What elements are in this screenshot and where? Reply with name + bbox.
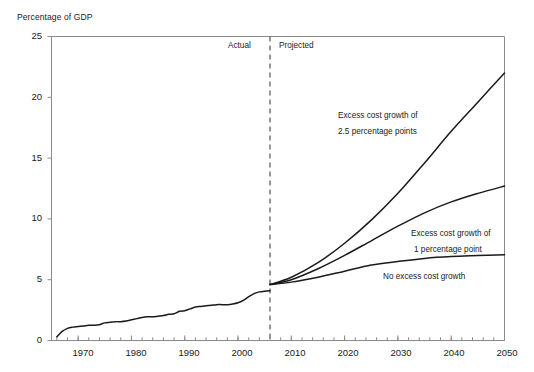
y-tick-label-5: 5 — [16, 273, 42, 284]
series-lines — [57, 73, 505, 337]
x-tick-label-2020: 2020 — [328, 347, 368, 358]
frame-path — [52, 37, 505, 341]
plot-area — [0, 0, 534, 372]
x-tick-label-2030: 2030 — [381, 347, 421, 358]
y-tick-label-25: 25 — [16, 30, 42, 41]
annotation-mid-line1: Excess cost growth of — [411, 228, 491, 241]
series-line-3 — [57, 291, 270, 337]
x-tick-label-2010: 2010 — [275, 347, 315, 358]
y-axis-title: Percentage of GDP — [17, 12, 92, 22]
y-tick-label-15: 15 — [16, 152, 42, 163]
y-tick-label-0: 0 — [16, 334, 42, 345]
axis-ticks — [48, 37, 505, 341]
y-tick-label-10: 10 — [16, 212, 42, 223]
x-tick-label-1990: 1990 — [169, 347, 209, 358]
y-tick-label-20: 20 — [16, 91, 42, 102]
annotation-low-line1: No excess cost growth — [383, 271, 465, 284]
chart-container: Percentage of GDP 25 20 15 10 5 0 1970 1… — [0, 0, 534, 372]
divider-label-actual: Actual — [228, 40, 251, 53]
annotation-mid-line2: 1 percentage point — [414, 244, 482, 257]
x-tick-label-2040: 2040 — [434, 347, 474, 358]
divider-label-projected: Projected — [279, 40, 314, 53]
annotation-high-line1: Excess cost growth of — [338, 110, 418, 123]
x-tick-label-2000: 2000 — [222, 347, 262, 358]
x-tick-label-1980: 1980 — [116, 347, 156, 358]
x-tick-label-1970: 1970 — [63, 347, 103, 358]
annotation-high-line2: 2.5 percentage points — [338, 126, 417, 139]
plot-frame — [52, 37, 505, 341]
x-tick-label-2050: 2050 — [487, 347, 527, 358]
